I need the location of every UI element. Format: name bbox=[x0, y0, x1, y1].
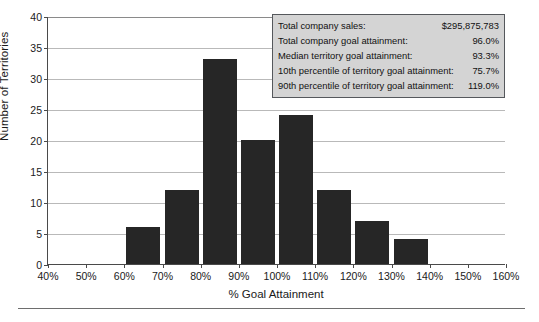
bar bbox=[126, 227, 160, 264]
bar bbox=[279, 115, 313, 264]
y-tick-mark bbox=[44, 110, 48, 111]
bar bbox=[241, 140, 275, 264]
y-tick-mark bbox=[44, 141, 48, 142]
histogram-chart: Number of Territories 0510152025303540 4… bbox=[0, 0, 539, 322]
bar bbox=[355, 221, 389, 264]
y-tick-label: 30 bbox=[30, 74, 42, 85]
stats-label: 90th percentile of territory goal attain… bbox=[278, 78, 459, 93]
x-tick-mark bbox=[163, 264, 164, 268]
gridline bbox=[48, 141, 505, 142]
x-tick-label: 150% bbox=[454, 271, 481, 282]
stats-value: 119.0% bbox=[468, 78, 499, 93]
stats-label: 10th percentile of territory goal attain… bbox=[278, 63, 459, 78]
y-tick-mark bbox=[44, 203, 48, 204]
stats-value: 93.3% bbox=[472, 48, 499, 63]
x-tick-mark bbox=[392, 264, 393, 268]
bar bbox=[394, 239, 428, 264]
stats-value: 96.0% bbox=[472, 33, 499, 48]
bottom-divider bbox=[18, 308, 525, 309]
x-tick-label: 100% bbox=[264, 271, 291, 282]
y-axis-title: Number of Territories bbox=[0, 32, 10, 141]
x-tick-mark bbox=[86, 264, 87, 268]
x-tick-label: 130% bbox=[378, 271, 405, 282]
stats-row: Total company goal attainment:96.0% bbox=[278, 33, 499, 48]
stats-value: 75.7% bbox=[472, 63, 499, 78]
x-tick-label: 40% bbox=[37, 271, 58, 282]
x-tick-label: 160% bbox=[493, 271, 520, 282]
x-axis-title: % Goal Attainment bbox=[47, 288, 505, 300]
y-tick-label: 35 bbox=[30, 43, 42, 54]
x-tick-mark bbox=[353, 264, 354, 268]
x-tick-mark bbox=[124, 264, 125, 268]
y-tick-mark bbox=[44, 172, 48, 173]
gridline bbox=[48, 172, 505, 173]
x-tick-mark bbox=[201, 264, 202, 268]
x-tick-mark bbox=[239, 264, 240, 268]
x-tick-label: 90% bbox=[228, 271, 249, 282]
x-tick-label: 110% bbox=[302, 271, 328, 282]
x-tick-mark bbox=[430, 264, 431, 268]
stats-label: Total company goal attainment: bbox=[278, 33, 413, 48]
x-tick-mark bbox=[48, 264, 49, 268]
y-tick-label: 25 bbox=[30, 105, 42, 116]
y-tick-mark bbox=[44, 48, 48, 49]
stats-value: $295,875,783 bbox=[442, 18, 499, 33]
stats-row: 10th percentile of territory goal attain… bbox=[278, 63, 499, 78]
summary-stats-box: Total company sales:$295,875,783Total co… bbox=[272, 14, 505, 98]
x-tick-mark bbox=[277, 264, 278, 268]
y-tick-label: 0 bbox=[36, 260, 42, 271]
stats-label: Total company sales: bbox=[278, 18, 371, 33]
x-tick-label: 60% bbox=[114, 271, 135, 282]
bar bbox=[165, 190, 199, 264]
y-tick-label: 40 bbox=[30, 12, 42, 23]
gridline bbox=[48, 110, 505, 111]
gridline bbox=[48, 203, 505, 204]
bar bbox=[317, 190, 351, 264]
y-tick-label: 5 bbox=[36, 229, 42, 240]
x-tick-label: 140% bbox=[416, 271, 443, 282]
stats-row: 90th percentile of territory goal attain… bbox=[278, 78, 499, 93]
stats-row: Median territory goal attainment:93.3% bbox=[278, 48, 499, 63]
x-tick-label: 70% bbox=[152, 271, 173, 282]
x-tick-label: 120% bbox=[340, 271, 367, 282]
y-tick-label: 10 bbox=[30, 198, 42, 209]
y-tick-mark bbox=[44, 234, 48, 235]
y-tick-mark bbox=[44, 17, 48, 18]
bar bbox=[203, 59, 237, 264]
y-tick-mark bbox=[44, 79, 48, 80]
x-tick-mark bbox=[315, 264, 316, 268]
y-tick-label: 15 bbox=[30, 167, 42, 178]
x-tick-label: 50% bbox=[76, 271, 97, 282]
gridline bbox=[48, 234, 505, 235]
x-tick-mark bbox=[468, 264, 469, 268]
x-tick-label: 80% bbox=[190, 271, 211, 282]
x-tick-mark bbox=[506, 264, 507, 268]
stats-row: Total company sales:$295,875,783 bbox=[278, 18, 499, 33]
stats-label: Median territory goal attainment: bbox=[278, 48, 417, 63]
y-tick-label: 20 bbox=[30, 136, 42, 147]
